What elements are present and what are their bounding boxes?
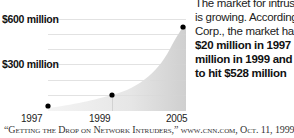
data-point-1997 (45, 103, 50, 108)
data-point-2005 (180, 24, 185, 29)
blurb-line-6: to hit $528 million (195, 66, 294, 80)
y-tick-300: $300 million (2, 58, 59, 70)
blurb-line-4: $20 million in 1997 (195, 38, 294, 52)
y-tick-600: $600 million (2, 13, 59, 25)
data-point-1999 (109, 92, 114, 97)
blurb-line-5: million in 1999 and (195, 52, 294, 66)
x-tick-1999: 1999 (89, 113, 110, 124)
blurb-line-1: The market for intrusi (195, 0, 294, 10)
description-blurb: The market for intrusi is growing. Accor… (195, 0, 294, 80)
x-tick-1997: 1997 (21, 113, 42, 124)
area-fill (48, 26, 186, 111)
source-caption: “Getting the Drop on Network Intruders,”… (4, 124, 294, 135)
blurb-line-3: Corp., the market ha (195, 24, 294, 38)
x-tick-2005: 2005 (166, 113, 187, 124)
blurb-line-2: is growing. According (195, 10, 294, 24)
